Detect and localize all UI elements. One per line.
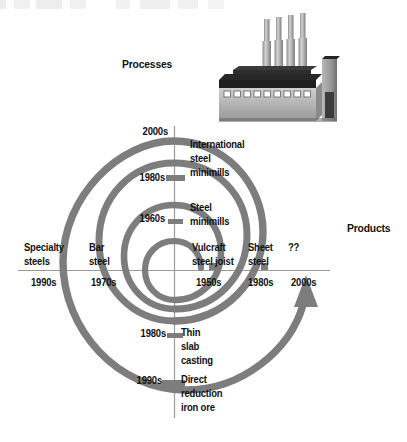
factory-window-row (224, 91, 311, 97)
factory-window (284, 91, 291, 97)
year-label-processes-1990s-lower: 1990s (126, 374, 162, 386)
factory-window (294, 91, 301, 97)
processes-axis-label: Processes (122, 58, 172, 70)
products-axis-label: Products (347, 222, 390, 234)
product-label-specialty-steels-line2: steels (24, 255, 50, 267)
factory-roof-band (219, 80, 316, 88)
process-label-direct-reduction-line3: iron ore (181, 401, 215, 413)
smokestack-group (263, 13, 308, 71)
factory-window (224, 91, 231, 97)
year-label-products-1980s: 1980s (248, 276, 273, 288)
factory-window (274, 91, 281, 97)
factory-window (234, 91, 241, 97)
product-label-vulcraft-line2: steel joist (192, 255, 234, 267)
year-label-products-1950s: 1950s (196, 276, 221, 288)
year-label-products-1970s: 1970s (91, 276, 116, 288)
year-label-processes-2000s: 2000s (132, 125, 168, 137)
process-label-direct-reduction-line1: Direct (181, 373, 207, 385)
process-label-thin-slab-casting-line3: casting (181, 354, 213, 366)
year-label-products-2000s: 2000s (291, 276, 316, 288)
factory-upper-roof (233, 66, 317, 70)
process-label-thin-slab-casting-line1: Thin (181, 326, 200, 338)
factory-main-roof (219, 74, 322, 80)
process-label-international-steel-minimills-line3: minimills (190, 166, 229, 178)
product-label-bar-steel-line1: Bar (89, 241, 104, 253)
factory-window (254, 91, 261, 97)
product-label-specialty-steels-line1: Specialty (24, 241, 64, 253)
process-label-direct-reduction-line2: reduction (181, 387, 222, 399)
factory-tower-dark-panel (325, 92, 334, 118)
factory-window (244, 91, 251, 97)
process-label-international-steel-minimills-line1: International (190, 138, 244, 150)
year-label-processes-1980s-upper: 1980s (129, 171, 165, 183)
process-label-international-steel-minimills-line2: steel (190, 152, 211, 164)
factory-tower-roof (322, 56, 340, 59)
year-label-processes-1960s: 1960s (129, 212, 165, 224)
year-label-processes-1980s-lower: 1980s (130, 327, 166, 339)
product-label-sheet-steel-line1: Sheet (248, 241, 273, 253)
product-label-vulcraft-line1: Vulcraft (192, 241, 225, 253)
product-label-sheet-steel-line2: steel (248, 255, 269, 267)
factory-side-face (316, 82, 322, 121)
year-label-products-1990s: 1990s (31, 276, 56, 288)
product-label-unknown: ?? (288, 241, 299, 253)
process-label-thin-slab-casting-line2: slab (181, 340, 199, 352)
factory-window (264, 91, 271, 97)
diagram-canvas: Processes Products 2000s 1980s 1960s 198… (0, 0, 407, 442)
process-label-steel-minimills-line1: Steel (190, 201, 212, 213)
factory-base-shadow (219, 118, 337, 122)
process-label-steel-minimills-line2: minimills (190, 215, 229, 227)
product-label-bar-steel-line2: steel (89, 255, 110, 267)
factory-window (304, 91, 311, 97)
